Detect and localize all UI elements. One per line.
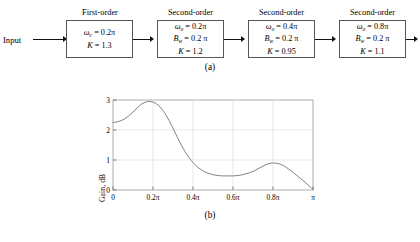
caption-a: (a) xyxy=(0,62,420,72)
stage-2-bw-sub: w xyxy=(179,38,183,44)
input-connector-line xyxy=(33,39,65,40)
stage-4-k: K = 1.1 xyxy=(360,47,384,58)
stage-2-k: K = 1.2 xyxy=(178,47,202,58)
stage-1-omega: ωc = 0.2π xyxy=(84,28,115,41)
stage-title-3: Second-order xyxy=(243,8,320,18)
stage-4-bw-eq: = 0.2 π xyxy=(366,34,389,43)
x-tick-label-0: 0 xyxy=(111,193,115,202)
arrowhead-1-2 xyxy=(150,36,154,42)
y-tick-label-2: 2 xyxy=(106,126,110,135)
y-axis-title: Gain, dB xyxy=(98,174,107,202)
stage-1-omega-sub: c xyxy=(90,32,92,38)
stage-box-3: ωo = 0.4π Bw = 0.2 π K = 0.95 xyxy=(248,20,315,58)
caption-b: (b) xyxy=(0,210,420,220)
stage-3-bw: Bw = 0.2 π xyxy=(265,34,299,47)
x-tick-label-4: 0.8π xyxy=(267,193,280,202)
stage-4-omega-eq: = 0.8π xyxy=(367,22,388,31)
x-tick-label-3: 0.6π xyxy=(227,193,240,202)
block-diagram: Input First-order ωc = 0.2π K = 1.3 Seco… xyxy=(0,0,420,80)
stage-2-omega: ωo = 0.2π xyxy=(175,22,207,35)
stage-3-omega: ωo = 0.4π xyxy=(266,22,298,35)
stage-4-bw-sub: w xyxy=(361,38,365,44)
arrowhead-3-4 xyxy=(332,36,336,42)
stage-3-omega-sub: o xyxy=(271,26,274,32)
plot-svg: 3 2 1 0 0 0.2π 0.4π 0.6π 0.8π π xyxy=(0,84,420,214)
input-label: Input xyxy=(3,35,21,45)
stage-2-k-symbol: K xyxy=(178,47,183,56)
stage-3-k-symbol: K xyxy=(267,47,272,56)
x-tick-label-2: 0.4π xyxy=(187,193,200,202)
y-tick-label-1: 1 xyxy=(106,156,110,165)
stage-4-k-symbol: K xyxy=(360,47,365,56)
stage-title-2: Second-order xyxy=(152,8,229,18)
stage-3-bw-eq: = 0.2 π xyxy=(275,34,298,43)
stage-4-bw: Bw = 0.2 π xyxy=(356,34,390,47)
x-tick-label-5: π xyxy=(311,193,315,202)
stage-4-omega-sub: o xyxy=(362,26,365,32)
x-tick-label-1: 0.2π xyxy=(147,193,160,202)
stage-2-bw-eq: = 0.2 π xyxy=(184,34,207,43)
stage-box-1: ωc = 0.2π K = 1.3 xyxy=(66,20,133,58)
stage-2-omega-sub: o xyxy=(180,26,183,32)
stage-title-1: First-order xyxy=(65,8,135,18)
stage-1-k-symbol: K xyxy=(87,41,92,50)
stage-1-k: K = 1.3 xyxy=(87,41,111,52)
stage-3-omega-eq: = 0.4π xyxy=(276,22,297,31)
arrowhead-2-3 xyxy=(241,36,245,42)
stage-box-4: ωo = 0.8π Bw = 0.2 π K = 1.1 xyxy=(339,20,406,58)
output-arrowhead xyxy=(414,36,418,42)
stage-2-k-eq: = 1.2 xyxy=(186,47,203,56)
stage-1-k-eq: = 1.3 xyxy=(95,41,112,50)
stage-4-omega: ωo = 0.8π xyxy=(357,22,389,35)
stage-3-bw-sub: w xyxy=(270,38,274,44)
stage-title-4: Second-order xyxy=(334,8,411,18)
plot-frame xyxy=(113,100,313,190)
gain-response-plot: 3 2 1 0 0 0.2π 0.4π 0.6π 0.8π π Gain, dB… xyxy=(0,84,420,214)
figure-root: Input First-order ωc = 0.2π K = 1.3 Seco… xyxy=(0,0,420,242)
stage-3-k: K = 0.95 xyxy=(267,47,296,58)
stage-2-omega-eq: = 0.2π xyxy=(185,22,206,31)
stage-1-omega-eq: = 0.2π xyxy=(94,28,115,37)
stage-box-2: ωo = 0.2π Bw = 0.2 π K = 1.2 xyxy=(157,20,224,58)
stage-4-k-eq: = 1.1 xyxy=(368,47,385,56)
y-tick-label-3: 3 xyxy=(106,96,110,105)
stage-3-k-eq: = 0.95 xyxy=(275,47,296,56)
stage-2-bw: Bw = 0.2 π xyxy=(174,34,208,47)
